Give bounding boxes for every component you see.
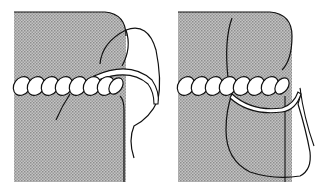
left-panel bbox=[10, 12, 160, 182]
sewing-illustration bbox=[0, 0, 328, 191]
right-panel bbox=[174, 12, 314, 182]
illustration bbox=[0, 0, 328, 191]
fabric-left bbox=[14, 12, 126, 182]
